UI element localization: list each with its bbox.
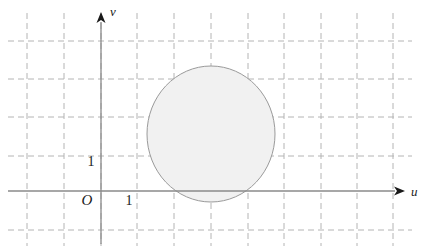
shaded-disk	[147, 66, 275, 202]
origin-label: O	[82, 192, 93, 208]
coordinate-plane-figure: u v O 1 1	[0, 0, 431, 251]
v-axis-unit-tick-label: 1	[88, 154, 95, 169]
figure-container: u v O 1 1	[0, 0, 431, 251]
u-axis-unit-tick-label: 1	[126, 193, 133, 208]
u-axis-label: u	[411, 184, 418, 199]
v-axis-label: v	[110, 4, 116, 19]
